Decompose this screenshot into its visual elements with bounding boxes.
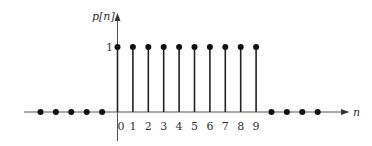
x-tick-label: 0: [118, 120, 125, 133]
y-tick-1: 1: [106, 41, 113, 54]
stem-dot: [115, 44, 121, 50]
stem-dot: [68, 109, 74, 115]
x-tick-label: 9: [253, 120, 260, 133]
stem-dot: [176, 44, 182, 50]
stem-dot: [84, 109, 90, 115]
stems-group: [38, 44, 321, 115]
stem-dot: [192, 44, 198, 50]
x-tick-labels: 0123456789: [118, 120, 260, 133]
stem-dot: [222, 44, 228, 50]
x-axis-label: n: [353, 106, 360, 119]
stem-dot: [299, 109, 305, 115]
x-tick-label: 1: [129, 120, 136, 133]
stem-dot: [315, 109, 321, 115]
x-tick-label: 8: [237, 120, 244, 133]
x-tick-label: 6: [206, 120, 213, 133]
x-tick-label: 7: [222, 120, 229, 133]
x-tick-label: 4: [176, 120, 183, 133]
x-tick-label: 3: [160, 120, 167, 133]
stem-dot: [99, 109, 105, 115]
x-tick-label: 5: [191, 120, 198, 133]
stem-dot: [284, 109, 290, 115]
x-tick-label: 2: [145, 120, 152, 133]
stem-dot: [253, 44, 259, 50]
stem-dot: [269, 109, 275, 115]
stem-dot: [53, 109, 59, 115]
y-axis-label: p[n]: [92, 10, 115, 23]
stem-dot: [207, 44, 213, 50]
stem-dot: [145, 44, 151, 50]
stem-dot: [161, 44, 167, 50]
stem-dot: [238, 44, 244, 50]
stem-plot: 0123456789 p[n] n 1: [0, 0, 372, 146]
stem-dot: [130, 44, 136, 50]
stem-dot: [38, 109, 44, 115]
